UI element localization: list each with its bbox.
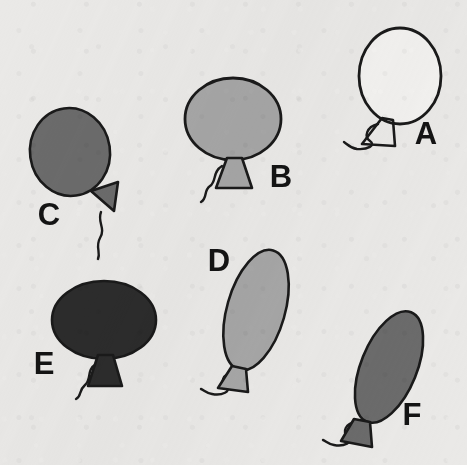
balloon-d-label: D [208,243,230,278]
balloon-d-knot [218,366,248,392]
balloon-e[interactable]: E [34,281,156,399]
balloon-f[interactable]: F [323,302,437,447]
balloon-f-body [341,302,437,432]
balloons-illustration: C B A E D [0,0,467,465]
balloon-f-label: F [403,397,422,432]
balloon-e-knot [88,355,122,386]
balloon-b-body [185,78,281,160]
balloon-e-body [52,281,156,359]
balloon-f-knot [341,419,372,447]
balloon-a[interactable]: A [344,28,441,151]
balloon-e-label: E [34,346,55,381]
balloon-a-label: A [415,116,437,151]
balloon-c[interactable]: C [24,103,118,259]
balloon-b-label: B [270,159,292,194]
balloon-c-label: C [38,197,60,232]
balloon-b[interactable]: B [185,78,292,202]
balloon-scene-svg: C B A E D [0,0,467,465]
balloon-a-body [359,28,441,124]
balloon-c-string [98,212,102,259]
balloon-b-knot [216,158,252,188]
balloon-d[interactable]: D [201,242,301,394]
